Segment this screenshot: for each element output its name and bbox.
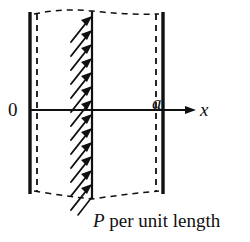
load-arrow: [71, 184, 92, 210]
deformed-top-edge: [34, 10, 159, 14]
figure-container: 0 a x P per unit length: [0, 0, 250, 242]
load-arrow: [71, 100, 92, 126]
load-arrow: [71, 58, 92, 84]
load-symbol: P: [93, 210, 105, 231]
load-arrow: [71, 86, 92, 112]
load-arrow: [71, 128, 92, 154]
x-axis-label: x: [200, 100, 208, 119]
origin-label: 0: [8, 100, 18, 119]
load-arrow: [71, 170, 92, 196]
load-caption-text: per unit length: [105, 210, 221, 231]
load-arrow: [71, 156, 92, 182]
load-arrow: [71, 16, 92, 42]
x-axis-arrowhead: [185, 106, 196, 114]
load-arrow-group: [71, 16, 92, 210]
mechanics-diagram: [0, 0, 250, 242]
load-arrow: [71, 30, 92, 56]
load-arrow: [71, 114, 92, 140]
load-arrow: [71, 72, 92, 98]
right-boundary-label: a: [152, 93, 162, 112]
load-arrow: [71, 44, 92, 70]
load-arrow: [71, 142, 92, 168]
load-caption: P per unit length: [93, 211, 220, 230]
deformed-bottom-edge: [34, 191, 159, 199]
